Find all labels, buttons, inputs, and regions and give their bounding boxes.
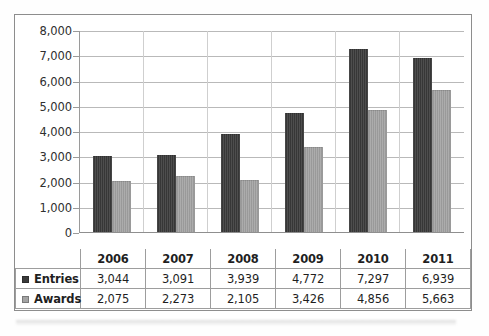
legend-entries: Entries [16,269,81,289]
bar-awards-2010[interactable] [368,110,387,233]
y-tick-mark-0 [73,233,79,234]
bar-awards-2011[interactable] [432,90,451,233]
bar-entries-2010[interactable] [349,49,368,233]
y-tick-label-3000: 3,000 [15,152,72,163]
scanned-figure-page: 8,000 7,000 6,000 5,000 4,000 3,000 2,00… [0,0,489,336]
cell-entries-2008: 3,939 [211,269,276,289]
table-header-2011: 2011 [406,249,471,269]
entries-swatch-icon [22,276,29,283]
y-axis: 8,000 7,000 6,000 5,000 4,000 3,000 2,00… [15,15,78,252]
cell-awards-2008: 2,105 [211,289,276,309]
bar-awards-2009[interactable] [304,147,323,234]
y-tick-label-0: 0 [15,228,72,239]
bar-group-2010 [336,31,400,233]
table-row-entries: Entries 3,044 3,091 3,939 4,772 7,297 6,… [16,269,471,289]
cell-awards-2011: 5,663 [406,289,471,309]
x-axis-baseline [80,232,464,233]
cell-entries-2009: 4,772 [276,269,341,289]
y-tick-label-4000: 4,000 [15,127,72,138]
cell-entries-2006: 3,044 [81,269,146,289]
bar-group-2009 [272,31,336,233]
table-header-2008: 2008 [211,249,276,269]
table-header-2009: 2009 [276,249,341,269]
y-tick-label-6000: 6,000 [15,76,72,87]
bar-group-2011 [400,31,464,233]
y-tick-label-1000: 1,000 [15,202,72,213]
table-header-2007: 2007 [146,249,211,269]
cell-awards-2009: 3,426 [276,289,341,309]
bar-group-2007 [144,31,208,233]
cell-awards-2010: 4,856 [341,289,406,309]
legend-awards: Awards [16,289,81,309]
bar-entries-2007[interactable] [157,155,176,233]
table-header-2010: 2010 [341,249,406,269]
bar-awards-2006[interactable] [112,181,131,233]
table-row-years: 2006 2007 2008 2009 2010 2011 [16,249,471,269]
y-tick-label-2000: 2,000 [15,177,72,188]
bar-awards-2008[interactable] [240,180,259,233]
table-corner-blank [16,249,81,269]
bar-group-2008 [208,31,272,233]
plot-region: 8,000 7,000 6,000 5,000 4,000 3,000 2,00… [15,15,471,252]
cell-entries-2010: 7,297 [341,269,406,289]
y-tick-label-5000: 5,000 [15,101,72,112]
legend-awards-label: Awards [34,292,81,306]
chart-figure-frame: 8,000 7,000 6,000 5,000 4,000 3,000 2,00… [14,14,472,311]
chart-data-table: 2006 2007 2008 2009 2010 2011 Entries 3,… [15,249,471,309]
cell-entries-2011: 6,939 [406,269,471,289]
legend-entries-label: Entries [34,272,79,286]
y-tick-label-8000: 8,000 [15,26,72,37]
cell-entries-2007: 3,091 [146,269,211,289]
plot-area [79,31,464,233]
bar-entries-2008[interactable] [221,134,240,233]
y-tick-label-7000: 7,000 [15,51,72,62]
bars-layer [80,31,464,233]
bar-entries-2009[interactable] [285,113,304,233]
table-header-2006: 2006 [81,249,146,269]
bar-awards-2007[interactable] [176,176,195,233]
bar-entries-2011[interactable] [413,58,432,233]
bar-group-2006 [80,31,144,233]
cell-awards-2006: 2,075 [81,289,146,309]
table-row-awards: Awards 2,075 2,273 2,105 3,426 4,856 5,6… [16,289,471,309]
cell-awards-2007: 2,273 [146,289,211,309]
bar-entries-2006[interactable] [93,156,112,233]
awards-swatch-icon [22,296,29,303]
scan-shadow [16,320,456,326]
